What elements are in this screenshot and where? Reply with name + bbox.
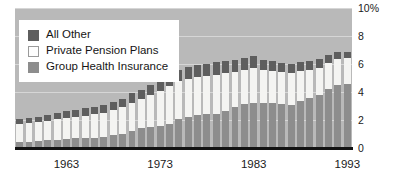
y-tick-label-10pct: 10% [358, 3, 379, 14]
bar-segment [100, 105, 107, 113]
y-tick-label-6: 6 [358, 59, 364, 70]
bar-1988 [297, 62, 304, 148]
bar-segment [138, 99, 145, 128]
bar-segment [278, 63, 285, 73]
bar-1967 [100, 105, 107, 148]
bar-1960 [35, 117, 42, 149]
x-axis-line [15, 147, 353, 150]
bar-segment [185, 67, 192, 78]
bar-segment [306, 98, 313, 148]
bar-segment [203, 76, 210, 114]
bar-segment [175, 81, 182, 119]
bar-1981 [232, 60, 239, 148]
bar-segment [213, 75, 220, 114]
bar-segment [260, 60, 267, 70]
bar-1972 [147, 85, 154, 148]
bar-segment [138, 90, 145, 100]
bar-segment [63, 118, 70, 139]
legend-label-all-other: All Other [46, 29, 91, 41]
bar-segment [260, 70, 267, 103]
bar-segment [35, 122, 42, 141]
legend-item-all-other: All Other [28, 27, 168, 43]
bar-segment [26, 123, 33, 141]
bar-segment [100, 113, 107, 137]
bar-segment [250, 56, 257, 67]
legend-swatch-group-health-insurance [28, 62, 39, 73]
bar-segment [316, 68, 323, 95]
bar-segment [222, 73, 229, 111]
legend-label-private-pension-plans: Private Pension Plans [46, 45, 159, 57]
y-axis-labels: 0246810% [356, 0, 407, 160]
bar-segment [213, 114, 220, 148]
bar-segment [157, 126, 164, 148]
bar-1993 [344, 52, 351, 148]
bar-1964 [72, 110, 79, 149]
bar-segment [250, 103, 257, 148]
bar-segment [194, 65, 201, 77]
bar-segment [325, 89, 332, 148]
bar-segment [175, 119, 182, 148]
y-tick-label-8: 8 [358, 31, 364, 42]
bar-1968 [110, 102, 117, 148]
bar-segment [147, 127, 154, 148]
bar-1992 [334, 52, 341, 148]
bar-segment [269, 61, 276, 71]
bar-segment [278, 104, 285, 148]
bar-1986 [278, 63, 285, 148]
bar-segment [232, 107, 239, 148]
bar-segment [288, 73, 295, 105]
bar-segment [316, 95, 323, 148]
bar-segment [232, 60, 239, 73]
legend-item-group-health-insurance: Group Health Insurance [28, 59, 168, 75]
bar-segment [288, 105, 295, 148]
bar-segment [147, 85, 154, 95]
bar-segment [147, 95, 154, 127]
bar-segment [157, 91, 164, 127]
bar-segment [241, 70, 248, 104]
x-tick-label-1993: 1993 [335, 159, 361, 171]
bar-segment [297, 62, 304, 71]
bar-1962 [54, 113, 61, 148]
bar-segment [222, 111, 229, 148]
bar-segment [138, 128, 145, 148]
bar-segment [297, 71, 304, 101]
bar-1959 [26, 118, 33, 148]
bar-segment [344, 58, 351, 83]
y-tick-label-4: 4 [358, 87, 364, 98]
bar-segment [194, 115, 201, 148]
bar-segment [344, 84, 351, 148]
bar-segment [91, 107, 98, 115]
bar-segment [119, 107, 126, 134]
bar-1979 [213, 62, 220, 148]
bar-segment [129, 103, 136, 131]
bar-segment [72, 117, 79, 139]
bar-segment [194, 77, 201, 115]
bar-1971 [138, 89, 145, 148]
bar-segment [110, 102, 117, 110]
bar-segment [241, 104, 248, 148]
bar-segment [260, 103, 267, 148]
x-tick-label-1963: 1963 [54, 159, 80, 171]
bar-1974 [166, 75, 173, 148]
bar-segment [316, 59, 323, 67]
bar-segment [166, 86, 173, 123]
bar-segment [44, 121, 51, 141]
bar-segment [250, 68, 257, 103]
bar-segment [269, 103, 276, 148]
bar-1965 [82, 108, 89, 148]
bar-1958 [16, 119, 23, 148]
bar-1987 [288, 64, 295, 148]
bar-1978 [203, 64, 210, 148]
bar-1963 [63, 111, 70, 148]
bar-1976 [185, 67, 192, 148]
bar-1989 [306, 61, 313, 148]
chart-legend: All Other Private Pension Plans Group He… [19, 20, 179, 82]
bar-1961 [44, 115, 51, 148]
x-tick-label-1973: 1973 [147, 159, 173, 171]
bar-segment [241, 58, 248, 70]
bar-1990 [316, 59, 323, 148]
legend-item-private-pension-plans: Private Pension Plans [28, 43, 168, 59]
bar-segment [91, 114, 98, 137]
bar-segment [203, 114, 210, 148]
bar-segment [72, 110, 79, 117]
